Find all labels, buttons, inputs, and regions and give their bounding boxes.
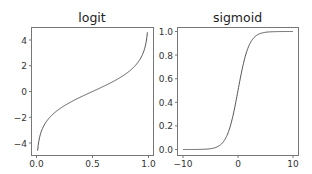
- sigmoid-ytick: 0.2: [159, 121, 173, 131]
- sigmoid-xtick: −10: [174, 159, 193, 169]
- logit-ytick: 0: [21, 87, 27, 97]
- sigmoid-ytick: 1.0: [159, 27, 174, 37]
- sigmoid-curve: [183, 32, 293, 150]
- logit-ytick: −2: [14, 113, 27, 123]
- sigmoid-ytick: 0.4: [159, 98, 174, 108]
- logit-curve: [38, 32, 148, 150]
- sigmoid-title: sigmoid: [213, 10, 262, 25]
- figure: logit 4 2 0 −2 −4 0.0 0.5 1.0 sigmoid: [0, 0, 312, 174]
- logit-x-ticks: 0.0 0.5 1.0: [29, 156, 156, 170]
- logit-ytick: 4: [21, 36, 27, 46]
- logit-xtick: 1.0: [141, 159, 156, 169]
- logit-ytick: −4: [14, 139, 28, 149]
- logit-xtick: 0.0: [29, 159, 44, 169]
- sigmoid-ytick: 0.8: [159, 51, 174, 61]
- logit-title: logit: [78, 10, 106, 25]
- sigmoid-ytick: 0.0: [159, 145, 174, 155]
- sigmoid-subplot: sigmoid 1.0 0.8 0.6 0.4 0.2 0.0 −10 0 10: [159, 10, 299, 169]
- sigmoid-xtick: 0: [235, 159, 241, 169]
- sigmoid-y-ticks: 1.0 0.8 0.6 0.4 0.2 0.0: [159, 27, 178, 155]
- logit-subplot: logit 4 2 0 −2 −4 0.0 0.5 1.0: [14, 10, 156, 169]
- logit-y-ticks: 4 2 0 −2 −4: [14, 36, 32, 149]
- sigmoid-xtick: 10: [287, 159, 299, 169]
- sigmoid-ytick: 0.6: [159, 74, 174, 84]
- sigmoid-x-ticks: −10 0 10: [174, 156, 299, 170]
- logit-xtick: 0.5: [85, 159, 99, 169]
- logit-ytick: 2: [21, 61, 27, 71]
